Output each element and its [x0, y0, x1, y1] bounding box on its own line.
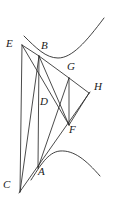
segment-A-G: [38, 78, 69, 168]
point-label-G: G: [67, 61, 75, 72]
segment-E-F: [22, 45, 69, 125]
point-label-B: B: [41, 40, 48, 51]
segment-C-G-through-D: [19, 92, 90, 193]
point-label-C: C: [3, 179, 10, 190]
segment-C-E: [20, 45, 22, 192]
segment-E-B: [22, 45, 39, 56]
geometry-figure: E B G H D F A C: [0, 0, 114, 202]
point-label-H: H: [94, 81, 102, 92]
point-label-F: F: [69, 124, 76, 135]
point-label-A: A: [38, 166, 45, 177]
point-label-D: D: [40, 96, 48, 107]
construction-lines: [19, 45, 90, 193]
upper-hyperbola-branch-curve: [24, 18, 104, 58]
segment-G-H: [69, 78, 89, 93]
conic-curves: [24, 18, 104, 180]
geometry-canvas: [0, 0, 114, 202]
point-label-E: E: [6, 38, 13, 49]
